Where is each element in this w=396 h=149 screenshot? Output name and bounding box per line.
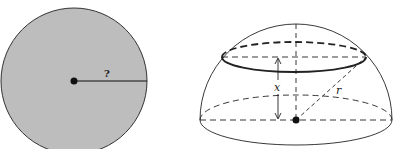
center-point <box>71 78 78 85</box>
hemisphere <box>200 24 392 145</box>
section-front <box>222 57 366 72</box>
radius-label-r: r <box>336 84 342 97</box>
cross-section-disk: ? <box>1 8 147 149</box>
base-front <box>200 120 392 145</box>
section-back <box>222 42 366 57</box>
radius-line <box>296 57 366 120</box>
height-label: x <box>274 81 281 94</box>
center-point <box>293 117 300 124</box>
diagram-canvas: ? x r <box>0 0 396 149</box>
radius-label: ? <box>104 68 110 79</box>
